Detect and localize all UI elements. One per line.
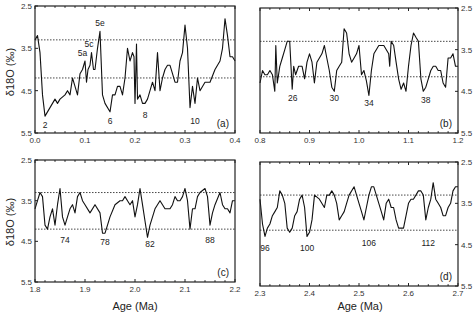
stage-annotation: 74 — [60, 235, 70, 245]
stage-annotation: 88 — [205, 235, 215, 245]
x-tick-label: 0.2 — [129, 136, 141, 145]
y-tick-label: 3.5 — [21, 44, 33, 53]
delta18o-series — [260, 29, 458, 96]
y-tick-label: 5.5 — [21, 129, 33, 138]
stage-annotation: 30 — [330, 93, 340, 103]
x-tick-label: 0.9 — [304, 136, 316, 145]
chart-panel-d: 2.32.42.52.62.72.53.54.55.596100106112(d… — [254, 158, 472, 298]
stage-annotation: 8 — [143, 110, 148, 120]
x-tick-label: 2.1 — [179, 285, 191, 294]
x-tick-label: 0.8 — [254, 136, 266, 145]
x-tick-label: 1.9 — [79, 285, 91, 294]
plot-frame — [35, 160, 235, 282]
y-tick-label: 5.5 — [21, 278, 33, 287]
panel-label: (b) — [440, 118, 452, 129]
stage-annotation: 26 — [288, 93, 298, 103]
y-tick-label: 4.5 — [461, 241, 473, 250]
stage-annotation: 112 — [422, 238, 436, 248]
x-tick-label: 2.4 — [304, 289, 316, 298]
y-tick-label: 2.5 — [461, 4, 473, 13]
ylabel-top: δ18O (‰) — [4, 48, 16, 96]
x-tick-label: 2.0 — [129, 285, 141, 294]
y-tick-label: 2.5 — [461, 158, 473, 167]
stage-annotation: 5c — [85, 39, 95, 49]
y-tick-label: 3.5 — [21, 197, 33, 206]
panel-label: (d) — [440, 271, 452, 282]
stage-annotation: 100 — [300, 243, 314, 253]
y-tick-label: 2.5 — [21, 156, 33, 165]
x-tick-label: 2.6 — [403, 289, 415, 298]
plot-frame — [260, 162, 458, 286]
y-tick-label: 5.5 — [461, 282, 473, 291]
stage-annotation: 78 — [100, 237, 110, 247]
ylabel-bottom: δ18O (‰) — [4, 198, 16, 246]
delta18o-series — [35, 19, 235, 116]
xlabel-right: Age (Ma) — [337, 300, 382, 312]
stage-annotation: 96 — [260, 243, 270, 253]
delta18o-series — [260, 183, 458, 237]
y-tick-label: 4.5 — [21, 87, 33, 96]
x-tick-label: 0.4 — [229, 136, 241, 145]
y-tick-label: 4.5 — [21, 237, 33, 246]
delta18o-series — [35, 189, 235, 238]
plot-frame — [35, 6, 235, 133]
stage-annotation: 106 — [362, 238, 376, 248]
y-tick-label: 3.5 — [461, 46, 473, 55]
x-tick-label: 2.5 — [353, 289, 365, 298]
stage-annotation: 6 — [108, 116, 113, 126]
stage-annotation: 82 — [145, 239, 155, 249]
x-tick-label: 1.0 — [353, 136, 365, 145]
xlabel-left: Age (Ma) — [112, 300, 157, 312]
stage-annotation: 2 — [43, 120, 48, 130]
plot-frame — [260, 8, 458, 133]
x-tick-label: 2.2 — [229, 285, 241, 294]
panel-label: (c) — [217, 267, 229, 278]
x-tick-label: 1.1 — [403, 136, 415, 145]
figure: 0.00.10.20.30.42.53.54.55.525a5c5e6810(a… — [0, 0, 475, 316]
x-tick-label: 0.1 — [79, 136, 91, 145]
y-tick-label: 2.5 — [21, 2, 33, 11]
chart-panel-b: 0.80.91.01.11.22.53.54.55.526303438(b) — [254, 4, 472, 145]
y-tick-label: 5.5 — [461, 129, 473, 138]
x-tick-label: 0.3 — [179, 136, 191, 145]
y-tick-label: 3.5 — [461, 199, 473, 208]
panel-label: (a) — [217, 118, 229, 129]
chart-panel-c: 1.81.92.02.12.22.53.54.55.574788288(c) — [21, 156, 241, 294]
stage-annotation: 38 — [421, 95, 431, 105]
y-tick-label: 4.5 — [461, 87, 473, 96]
chart-panel-a: 0.00.10.20.30.42.53.54.55.525a5c5e6810(a… — [21, 2, 241, 145]
stage-annotation: 34 — [364, 98, 374, 108]
stage-annotation: 5e — [95, 18, 105, 28]
x-tick-label: 2.3 — [254, 289, 266, 298]
stage-annotation: 10 — [190, 116, 200, 126]
